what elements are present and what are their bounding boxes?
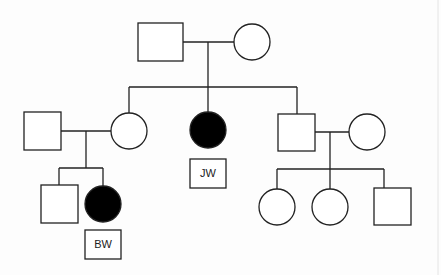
gen2-spouse-female-circle	[349, 114, 385, 150]
bw-label: BW	[94, 238, 112, 250]
gen2-spouse-male-square	[24, 112, 61, 150]
gen3-male-square	[41, 185, 78, 223]
gen3-female-circle-2	[312, 189, 348, 225]
gen3-female-circle-1	[259, 189, 295, 225]
jw-label: JW	[200, 167, 217, 179]
jw-affected-circle	[190, 112, 226, 148]
gen1-female-circle	[234, 24, 270, 60]
gen1-male-square	[138, 23, 183, 61]
pedigree-chart: JW BW	[0, 0, 441, 275]
gen2-son-square	[278, 114, 315, 151]
bw-affected-circle	[85, 186, 121, 222]
gen2-daughter-circle	[111, 113, 147, 149]
gen3-male-square-right	[374, 188, 411, 225]
